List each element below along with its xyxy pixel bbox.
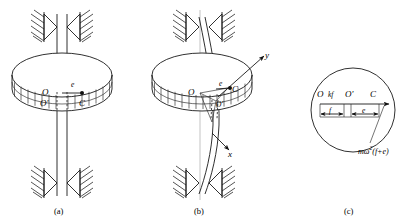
label-c-disk-center: O'	[345, 89, 353, 99]
formula-bracket: (f+e)	[372, 147, 389, 156]
bearing-symbol-bottom-right	[67, 170, 80, 196]
label-b-bearing-axis: O	[188, 87, 195, 97]
bearing-symbol-top-left	[44, 14, 57, 40]
label-a-eccentricity: e	[71, 80, 74, 89]
label-c-bearing-axis: O	[317, 89, 324, 99]
label-b-disk-center: O'	[216, 100, 223, 109]
panel-b	[152, 10, 264, 200]
caption-panel-a: (a)	[54, 206, 63, 216]
label-a-center-shaft: O'	[40, 98, 48, 108]
bearing-symbol-top-right	[67, 14, 80, 40]
bearing-symbol-b-bottom-right	[209, 170, 222, 196]
formula-mass-omega: mω	[358, 147, 369, 156]
hatch-bottom-left	[31, 166, 44, 198]
bearing-symbol-b-bottom-left	[186, 170, 199, 196]
technical-figure	[0, 0, 420, 224]
bearing-symbol-b-top-right	[209, 14, 222, 40]
hatch-top-right	[80, 10, 93, 42]
hatch-b-top-right	[222, 10, 235, 42]
hatch-b-bottom-left	[173, 166, 186, 198]
label-b-mass-center: C	[232, 84, 238, 94]
panel-a	[12, 10, 112, 198]
label-c-mass-center: C	[370, 89, 376, 99]
label-a-center-geometric: O	[42, 87, 49, 97]
caption-panel-b: (b)	[194, 206, 204, 216]
bearing-symbol-bottom-left	[44, 170, 57, 196]
panel-c	[311, 68, 395, 152]
hatch-b-bottom-right	[222, 166, 235, 198]
label-a-mass-center: C	[79, 98, 85, 108]
label-axis-x: x	[228, 149, 232, 159]
label-c-dim-eccentricity: e	[362, 106, 365, 115]
figure-root: O O' e C O O' e C y x O kf O' C f e mω2(…	[0, 0, 420, 224]
hatch-top-left	[31, 10, 44, 42]
bearing-symbol-b-top-left	[186, 14, 199, 40]
label-c-dim-deflection: f	[329, 106, 331, 115]
panel-b-bottom-bearing	[173, 166, 235, 198]
caption-panel-c: (c)	[344, 206, 353, 216]
axis-x-arrow	[212, 133, 229, 150]
label-c-restoring-force: kf	[328, 90, 333, 99]
panel-b-disk	[152, 53, 252, 111]
hatch-b-top-left	[173, 10, 186, 42]
hatch-bottom-right	[80, 166, 93, 198]
label-axis-y: y	[265, 50, 269, 60]
panel-a-disk	[12, 53, 112, 111]
label-b-eccentricity: e	[219, 79, 222, 88]
panel-b-top-bearing	[173, 10, 235, 42]
label-centrifugal-force-formula: mω2(f+e)	[358, 145, 389, 156]
